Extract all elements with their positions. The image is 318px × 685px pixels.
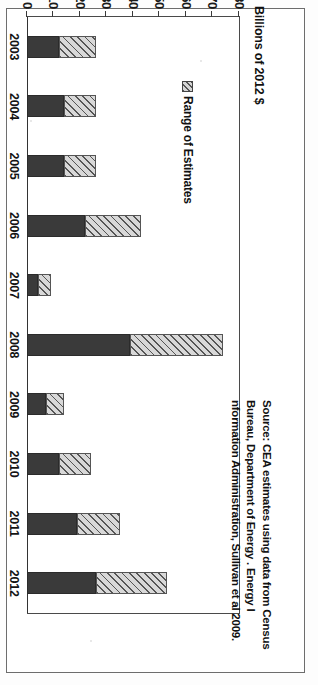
bar-range-segment bbox=[59, 453, 91, 475]
axis-tick bbox=[212, 11, 213, 17]
bar-2005 bbox=[27, 155, 96, 177]
bar-low-segment bbox=[27, 155, 64, 177]
bar-2012 bbox=[27, 572, 167, 594]
bar-low-segment bbox=[27, 274, 38, 296]
source-note-stage: Source: CEA estimates using data from Ce… bbox=[234, 400, 274, 662]
category-label-2004: 2004 bbox=[7, 79, 21, 133]
bar-2007 bbox=[27, 274, 51, 296]
category-label-2007: 2007 bbox=[7, 258, 21, 312]
category-label-2012: 2012 bbox=[7, 556, 21, 610]
bar-2010 bbox=[27, 453, 91, 475]
category-label-2010: 2010 bbox=[7, 437, 21, 491]
bar-low-segment bbox=[27, 393, 46, 415]
bar-range-segment bbox=[46, 393, 65, 415]
chart-legend: Range of Estimates bbox=[181, 81, 195, 204]
bar-2006 bbox=[27, 215, 141, 237]
category-label-2011: 2011 bbox=[7, 497, 21, 551]
axis-tick-label: 80 bbox=[232, 0, 247, 9]
hatched-range-swatch bbox=[183, 81, 194, 92]
bar-low-segment bbox=[27, 36, 59, 58]
axis-tick bbox=[53, 11, 54, 17]
value-axis-title: Billions of 2012 $ bbox=[252, 6, 266, 105]
axis-tick bbox=[79, 11, 80, 17]
bar-2009 bbox=[27, 393, 64, 415]
bar-2003 bbox=[27, 36, 96, 58]
axis-tick-label: 30 bbox=[100, 0, 115, 9]
axis-tick-label: 0 bbox=[20, 0, 35, 9]
category-label-2008: 2008 bbox=[7, 318, 21, 372]
bar-low-segment bbox=[27, 572, 96, 594]
bar-2008 bbox=[27, 334, 223, 356]
axis-tick-label: 10 bbox=[47, 0, 62, 9]
bar-range-segment bbox=[59, 36, 96, 58]
axis-tick bbox=[238, 11, 239, 17]
axis-tick-label: 60 bbox=[179, 0, 194, 9]
bar-range-segment bbox=[130, 334, 223, 356]
bar-range-segment bbox=[64, 95, 96, 117]
bar-range-segment bbox=[38, 274, 51, 296]
bar-range-segment bbox=[64, 155, 96, 177]
bar-2011 bbox=[27, 513, 120, 535]
category-label-2005: 2005 bbox=[7, 139, 21, 193]
bar-low-segment bbox=[27, 513, 77, 535]
bar-low-segment bbox=[27, 453, 59, 475]
bar-range-segment bbox=[77, 513, 119, 535]
bar-low-segment bbox=[27, 215, 85, 237]
axis-tick bbox=[106, 11, 107, 17]
bar-low-segment bbox=[27, 95, 64, 117]
plot-area: Range of Estimates 01020304050607080 200… bbox=[27, 16, 240, 614]
axis-tick-label: 20 bbox=[73, 0, 88, 9]
bar-range-segment bbox=[96, 572, 168, 594]
legend-label: Range of Estimates bbox=[181, 96, 195, 204]
axis-tick-label: 50 bbox=[153, 0, 168, 9]
bar-range-segment bbox=[85, 215, 141, 237]
axis-tick bbox=[159, 11, 160, 17]
source-note: Source: CEA estimates using data from Ce… bbox=[227, 400, 274, 662]
bar-low-segment bbox=[27, 334, 130, 356]
page: Billions of 2012 $ Range of Estimates 01… bbox=[0, 0, 318, 685]
axis-tick bbox=[185, 11, 186, 17]
bar-2004 bbox=[27, 95, 96, 117]
category-label-2006: 2006 bbox=[7, 199, 21, 253]
axis-tick bbox=[132, 11, 133, 17]
category-label-2009: 2009 bbox=[7, 377, 21, 431]
axis-tick-label: 70 bbox=[206, 0, 221, 9]
category-label-2003: 2003 bbox=[7, 20, 21, 74]
axis-tick bbox=[26, 11, 27, 17]
axis-tick-label: 40 bbox=[126, 0, 141, 9]
